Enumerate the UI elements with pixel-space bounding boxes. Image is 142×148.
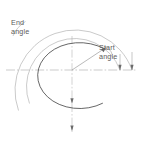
outer-arc-bottom-arrowhead xyxy=(70,126,73,132)
end-angle-label: End angle xyxy=(11,19,29,36)
end-angle-label-line2: angle xyxy=(11,28,29,37)
start-angle-label: Start angle xyxy=(99,44,117,61)
inner-arc-bottom-arrowhead xyxy=(70,98,73,104)
technical-diagram: End angle Start angle xyxy=(0,0,142,148)
start-angle-label-line2: angle xyxy=(99,53,117,62)
